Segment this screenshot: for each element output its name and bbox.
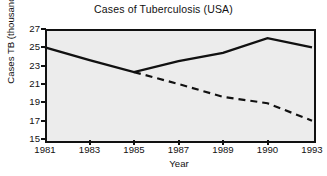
y-tick-mark [41, 138, 46, 140]
x-tick-mark [267, 140, 269, 145]
x-tick-label: 1983 [70, 145, 110, 155]
y-tick-label: 19 [14, 97, 40, 107]
y-tick-mark [41, 120, 46, 122]
series-line-1 [134, 72, 312, 121]
x-tick-label: 1987 [159, 145, 199, 155]
x-axis-title: Year [45, 158, 313, 169]
x-tick-label: 1989 [203, 145, 243, 155]
x-tick-label: 1993 [292, 145, 327, 155]
y-tick-label: 17 [14, 116, 40, 126]
chart-title: Cases of Tuberculosis (USA) [0, 3, 327, 15]
x-tick-mark [222, 140, 224, 145]
x-tick-label: 1981 [25, 145, 65, 155]
x-tick-mark [89, 140, 91, 145]
series-line-0 [45, 38, 312, 72]
y-tick-mark [41, 83, 46, 85]
y-tick-mark [41, 65, 46, 67]
y-tick-label: 23 [14, 61, 40, 71]
x-tick-label: 1990 [248, 145, 288, 155]
y-tick-mark [41, 28, 46, 30]
y-tick-mark [41, 46, 46, 48]
y-tick-label: 15 [14, 134, 40, 144]
chart-figure: Cases of Tuberculosis (USA) Cases TB (th… [0, 0, 327, 176]
plot-lines [45, 29, 312, 139]
x-tick-mark [178, 140, 180, 145]
y-tick-label: 25 [14, 42, 40, 52]
x-tick-label: 1985 [114, 145, 154, 155]
y-tick-label: 27 [14, 24, 40, 34]
y-tick-label: 21 [14, 79, 40, 89]
y-tick-mark [41, 101, 46, 103]
x-tick-mark [133, 140, 135, 145]
